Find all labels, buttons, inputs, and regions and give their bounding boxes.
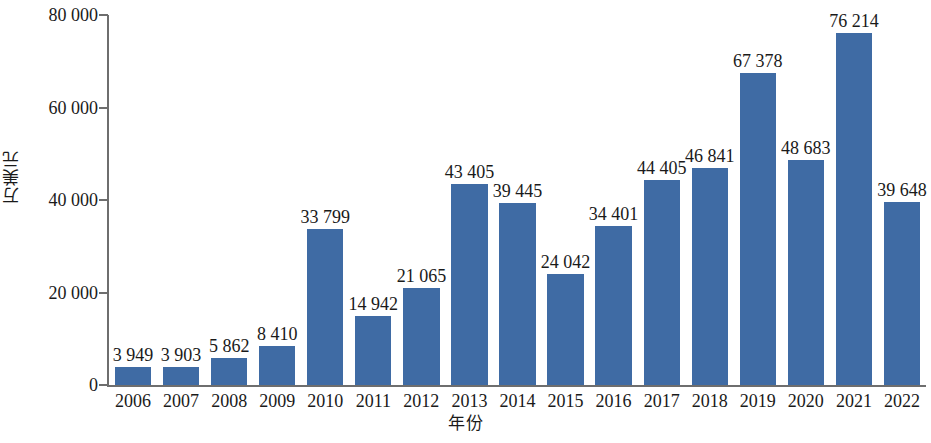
y-axis-tick-label: 60 000 [12,99,98,117]
bar-group: 3 903 [163,15,199,385]
bar-group: 43 405 [451,15,487,385]
x-axis-tick-label: 2013 [445,391,493,411]
x-axis-tick-label: 2006 [109,391,157,411]
bar-value-label: 33 799 [301,208,351,226]
x-axis-tick-label: 2016 [590,391,638,411]
bar-group: 3 949 [115,15,151,385]
x-axis-tick-label: 2019 [734,391,782,411]
x-axis-tick-label: 2007 [157,391,205,411]
bar-group: 67 378 [740,15,776,385]
y-axis-tick-label: 20 000 [12,284,98,302]
bar[interactable] [595,226,631,385]
x-axis-tick-label: 2014 [493,391,541,411]
bar[interactable] [740,73,776,385]
bar-group: 44 405 [644,15,680,385]
y-axis-tick-mark [99,384,108,386]
bar-group: 33 799 [307,15,343,385]
y-axis-tick-label: 80 000 [12,6,98,24]
plot-area: 3 9493 9035 8628 41033 79914 94221 06543… [109,15,926,385]
bar-value-label: 3 949 [113,346,154,364]
y-axis-tick-mark [99,14,108,16]
bar-group: 14 942 [355,15,391,385]
x-axis-title: 年份 [0,414,931,434]
bar-value-label: 43 405 [445,163,495,181]
y-axis-tick-mark [99,292,108,294]
x-axis-tick-label: 2010 [301,391,349,411]
bar[interactable] [836,33,872,385]
bar[interactable] [644,180,680,385]
bar-group: 24 042 [547,15,583,385]
x-axis-tick-label: 2018 [686,391,734,411]
bar[interactable] [403,288,439,385]
x-axis-tick-label: 2011 [349,391,397,411]
y-axis-tick-labels: 020 00040 00060 00080 000 [10,0,98,443]
bar-value-label: 34 401 [589,205,639,223]
bar-value-label: 8 410 [257,325,298,343]
bar[interactable] [115,367,151,385]
y-axis-tick-label: 40 000 [12,191,98,209]
x-axis-tick-label: 2022 [878,391,926,411]
bar-value-label: 3 903 [161,346,202,364]
x-axis-line [107,385,926,387]
bar-value-label: 39 445 [493,182,543,200]
bar[interactable] [547,274,583,385]
x-axis-tick-label: 2008 [205,391,253,411]
bar-group: 46 841 [692,15,728,385]
bar-group: 5 862 [211,15,247,385]
x-axis-tick-label: 2012 [397,391,445,411]
y-axis-tick-mark [99,199,108,201]
bar[interactable] [788,160,824,385]
bar-chart: 万美元 020 00040 00060 00080 000 3 9493 903… [0,0,931,443]
bar-group: 39 648 [884,15,920,385]
y-axis-tick-mark [99,107,108,109]
bar[interactable] [163,367,199,385]
bar[interactable] [211,358,247,385]
bar-value-label: 67 378 [733,52,783,70]
bar-group: 34 401 [595,15,631,385]
bar-value-label: 14 942 [349,295,399,313]
bar-value-label: 44 405 [637,159,687,177]
bar[interactable] [259,346,295,385]
bar-value-label: 76 214 [829,12,879,30]
y-axis-tick-label: 0 [12,376,98,394]
bar-value-label: 48 683 [781,139,831,157]
bar[interactable] [355,316,391,385]
bar[interactable] [451,184,487,385]
bar[interactable] [307,229,343,385]
x-axis-tick-label: 2017 [638,391,686,411]
x-axis-tick-label: 2020 [782,391,830,411]
bar-value-label: 46 841 [685,147,735,165]
bar-value-label: 24 042 [541,253,591,271]
bar[interactable] [884,202,920,385]
x-axis-tick-label: 2009 [253,391,301,411]
bar-group: 39 445 [499,15,535,385]
x-axis-tick-label: 2021 [830,391,878,411]
bar-group: 8 410 [259,15,295,385]
bar-value-label: 5 862 [209,337,250,355]
bar-value-label: 21 065 [397,267,447,285]
bar-group: 21 065 [403,15,439,385]
bar-value-label: 39 648 [877,181,927,199]
bar[interactable] [692,168,728,385]
x-axis-tick-label: 2015 [542,391,590,411]
bar[interactable] [499,203,535,385]
bar-group: 48 683 [788,15,824,385]
bar-group: 76 214 [836,15,872,385]
